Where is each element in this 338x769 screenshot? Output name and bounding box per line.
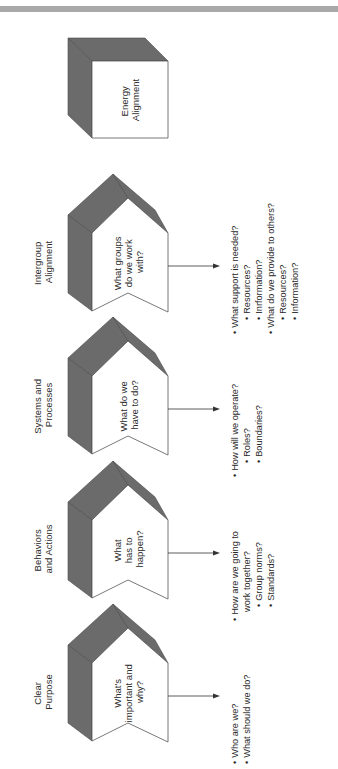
bullet-item: •Standards? <box>266 554 276 607</box>
arrowhead-icon <box>213 694 220 699</box>
bullet-item: •Inrformation? <box>254 260 264 320</box>
bullet-item: •Resources? <box>278 265 288 320</box>
stage-question: What do we have to do? <box>118 379 140 432</box>
stage-label: Systems and Processes <box>32 376 54 434</box>
bullet-item-continuation: work together? <box>242 551 252 613</box>
bullet-list: •What support is needed? •Resources? •In… <box>230 203 300 334</box>
bullet-item: •Resources? <box>242 265 252 320</box>
stage-behaviors-and-actions: Behaviors and Actions What has to happen… <box>32 461 276 621</box>
bullet-item: •Group norms? <box>254 542 264 607</box>
bullet-item: •Boundaries? <box>254 405 264 463</box>
arrowhead-icon <box>213 551 220 556</box>
bullet-item: •How will we operate? <box>230 384 240 477</box>
arrowhead-icon <box>213 264 220 269</box>
stage-label: Intergroup Alignment <box>32 239 54 285</box>
stage-label: Behaviors and Actions <box>32 524 54 573</box>
energy-alignment-cube: Energy Alignment <box>68 38 168 138</box>
energy-alignment-label: Energy Alignment <box>119 79 141 122</box>
bullet-item: •Information? <box>290 263 300 320</box>
arrowhead-icon <box>213 407 220 412</box>
bullet-list: •How will we operate? •Roles? •Boundarie… <box>230 384 264 477</box>
stage-label: Clear Purpose <box>32 674 54 709</box>
bullet-item: •Who are we? <box>230 704 240 764</box>
stage-clear-purpose: Clear Purpose What's important and why? … <box>32 604 252 764</box>
bullet-item: •Roles? <box>242 428 252 463</box>
bullet-list: •How are we going to work together? •Gro… <box>230 531 276 621</box>
bullet-item: •What should we do? <box>242 675 252 764</box>
bullet-list: •Who are we? •What should we do? <box>230 675 252 764</box>
bullet-item: •What support is needed? <box>230 226 240 334</box>
stage-intergroup-alignment: Intergroup Alignment What groups do we w… <box>32 174 300 334</box>
bullet-item: •What do we provide to others? <box>266 203 276 334</box>
alignment-diagram: Energy Alignment Intergroup Alignment Wh… <box>0 0 338 769</box>
stage-systems-and-processes: Systems and Processes What do we have to… <box>32 317 264 477</box>
bullet-item: •How are we going to <box>230 531 240 621</box>
